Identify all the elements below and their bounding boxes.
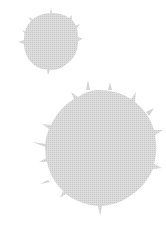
large-ink-splat — [26, 74, 166, 230]
splat-shape-icon — [14, 4, 88, 78]
splat-shape-icon — [26, 74, 166, 230]
small-ink-splat — [14, 4, 88, 78]
